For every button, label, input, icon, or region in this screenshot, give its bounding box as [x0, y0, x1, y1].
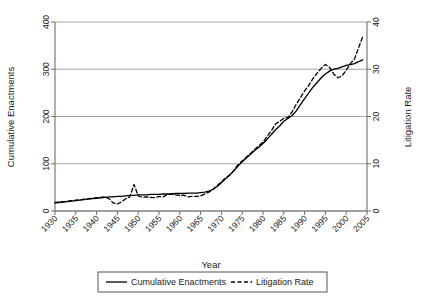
y-axis-left-title: Cumulative Enactments: [5, 67, 16, 168]
chart-legend: Cumulative Enactments Litigation Rate: [98, 272, 327, 292]
y-tick-label-200: 200: [41, 109, 51, 123]
legend-label-cumulative-enactments: Cumulative Enactments: [131, 277, 227, 287]
y2-tick-label-40: 40: [371, 17, 381, 27]
y2-tick-label-20: 20: [371, 112, 381, 122]
y-tick-label-300: 300: [41, 62, 51, 76]
y-tick-label-0: 0: [41, 208, 51, 213]
y2-tick-label-10: 10: [371, 159, 381, 169]
x-axis-title: Year: [201, 259, 220, 270]
y2-tick-label-0: 0: [371, 208, 381, 213]
y-axis-right-title: Litigation Rate: [402, 87, 413, 148]
y2-tick-label-30: 30: [371, 64, 381, 74]
legend-label-litigation-rate: Litigation Rate: [256, 277, 314, 287]
dual-axis-line-chart: 1930193519401945195019551960196519701975…: [0, 0, 425, 301]
y-tick-label-400: 400: [41, 15, 51, 29]
chart-figure: 1930193519401945195019551960196519701975…: [0, 0, 425, 301]
chart-background: [0, 0, 425, 301]
y-tick-label-100: 100: [41, 156, 51, 170]
